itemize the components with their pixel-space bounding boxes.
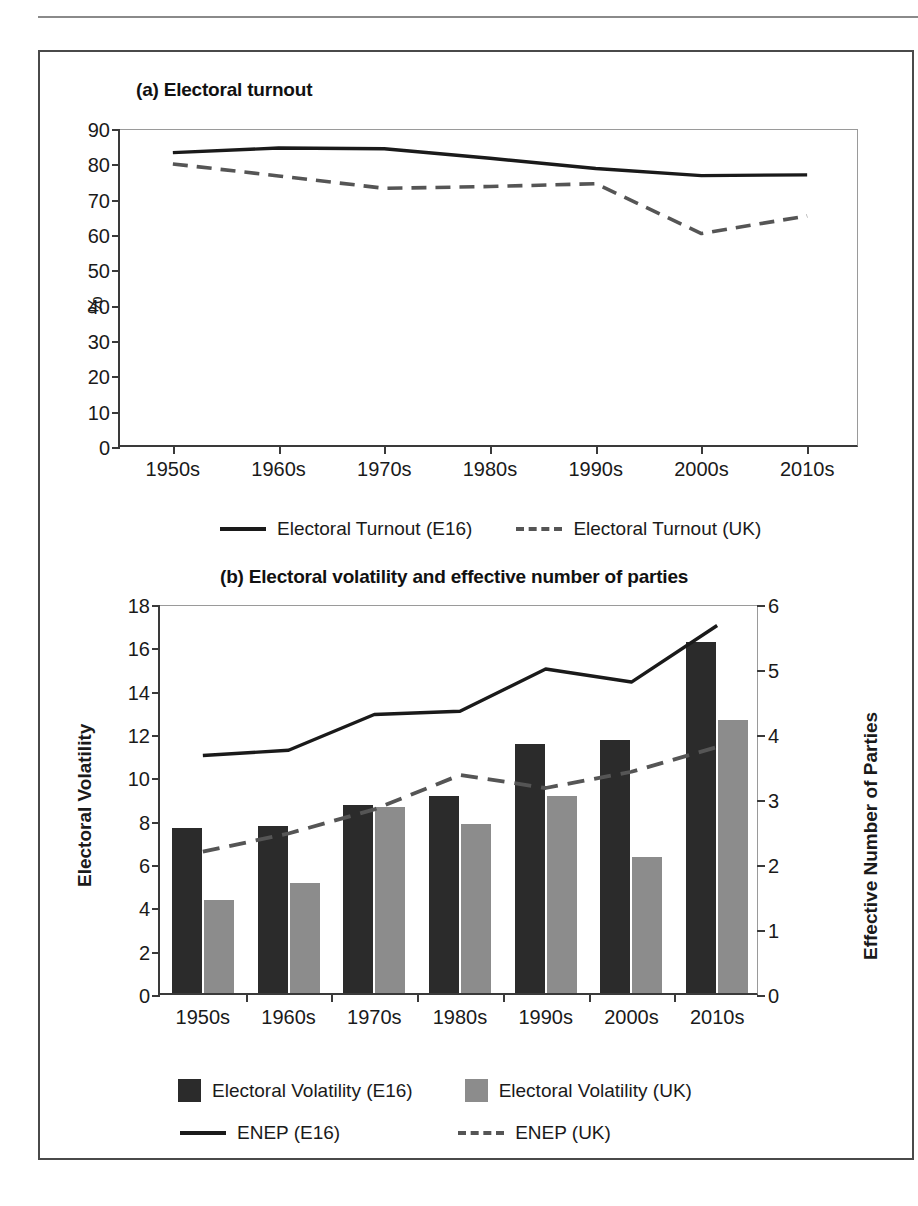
panel-a-line-e16 (173, 148, 807, 176)
panel-b-legend-row-2: ENEP (E16)ENEP (UK) (180, 1122, 611, 1144)
panel-a-y-tick-mark (112, 235, 120, 237)
page-top-rule (38, 16, 918, 18)
light-bar-swatch-icon (465, 1079, 488, 1102)
panel-a-y-tick-mark (112, 447, 120, 449)
panel-b-left-y-tick-mark (152, 908, 160, 910)
panel-b-x-tick-label: 1970s (347, 1006, 402, 1029)
panel-a-x-tick-label: 2010s (780, 458, 835, 481)
panel-a-y-tick-mark (112, 270, 120, 272)
panel-a-y-tick-mark (112, 376, 120, 378)
panel-b-x-tick-label: 1960s (261, 1006, 316, 1029)
solid-line-swatch-icon (220, 527, 266, 531)
panel-b-right-axis-label: Effective Number of Parties (860, 712, 882, 960)
panel-b-title: (b) Electoral volatility and effective n… (220, 566, 688, 588)
panel-b-left-y-tick-mark (152, 735, 160, 737)
panel-b-left-y-tick-mark (152, 605, 160, 607)
panel-b-series-lines (160, 606, 760, 996)
panel-b-left-y-tick-mark (152, 778, 160, 780)
panel-b-volatility-enep: (b) Electoral volatility and effective n… (40, 552, 916, 1162)
panel-a-legend-item: Electoral Turnout (E16) (220, 518, 472, 540)
panel-a-y-tick-mark (112, 306, 120, 308)
panel-b-legend-label: ENEP (E16) (237, 1122, 340, 1144)
panel-a-y-tick-mark (112, 129, 120, 131)
panel-b-left-y-tick-mark (152, 865, 160, 867)
panel-a-y-tick-mark (112, 200, 120, 202)
figure-container: (a) Electoral turnout % 0102030405060708… (38, 50, 914, 1160)
dashed-line-swatch-icon (458, 1131, 504, 1135)
panel-a-legend-label: Electoral Turnout (E16) (277, 518, 472, 540)
dark-bar-swatch-icon (178, 1079, 201, 1102)
panel-b-legend-label: Electoral Volatility (E16) (212, 1080, 413, 1102)
panel-b-line-enep-e16 (203, 626, 717, 756)
panel-b-legend-row-1: Electoral Volatility (E16)Electoral Vola… (178, 1079, 692, 1102)
panel-a-electoral-turnout: (a) Electoral turnout % 0102030405060708… (40, 52, 916, 552)
panel-b-left-y-tick-mark (152, 952, 160, 954)
panel-b-legend-item: ENEP (E16) (180, 1122, 340, 1144)
panel-a-x-tick-label: 1960s (251, 458, 306, 481)
panel-a-x-tick-label: 1980s (463, 458, 518, 481)
panel-a-x-tick-label: 1970s (357, 458, 412, 481)
panel-b-legend-item: ENEP (UK) (458, 1122, 611, 1144)
panel-a-y-tick-mark (112, 164, 120, 166)
panel-a-legend: Electoral Turnout (E16)Electoral Turnout… (220, 518, 761, 540)
panel-b-x-tick-label: 2010s (690, 1006, 745, 1029)
panel-a-series-lines (120, 130, 860, 448)
panel-b-left-y-tick-mark (152, 995, 160, 997)
panel-a-y-tick-mark (112, 412, 120, 414)
panel-b-plot-area: 024681012141618 0123456 1950s1960s1970s1… (158, 605, 758, 995)
panel-b-x-tick-label: 1990s (518, 1006, 573, 1029)
panel-a-x-tick-label: 1990s (568, 458, 623, 481)
panel-a-x-tick-label: 2000s (674, 458, 729, 481)
panel-a-plot-area: 0102030405060708090 1950s1960s1970s1980s… (118, 129, 858, 447)
panel-b-x-tick-label: 2000s (604, 1006, 659, 1029)
panel-b-left-y-tick-mark (152, 822, 160, 824)
panel-a-title: (a) Electoral turnout (136, 79, 312, 101)
panel-b-x-tick-label: 1950s (176, 1006, 231, 1029)
dashed-line-swatch-icon (516, 527, 562, 531)
panel-a-y-tick-mark (112, 341, 120, 343)
panel-b-x-tick-label: 1980s (433, 1006, 488, 1029)
panel-b-left-y-tick-mark (152, 648, 160, 650)
panel-a-x-tick-label: 1950s (146, 458, 201, 481)
panel-a-legend-label: Electoral Turnout (UK) (573, 518, 761, 540)
panel-b-legend-item: Electoral Volatility (UK) (465, 1079, 692, 1102)
panel-b-line-enep-uk (203, 747, 717, 852)
solid-line-swatch-icon (180, 1131, 226, 1135)
panel-b-legend-label: Electoral Volatility (UK) (499, 1080, 692, 1102)
panel-b-legend-label: ENEP (UK) (515, 1122, 611, 1144)
panel-a-legend-item: Electoral Turnout (UK) (516, 518, 761, 540)
panel-b-legend-item: Electoral Volatility (E16) (178, 1079, 413, 1102)
panel-b-left-y-tick-mark (152, 692, 160, 694)
panel-b-left-axis-label: Electoral Volatility (74, 724, 96, 887)
